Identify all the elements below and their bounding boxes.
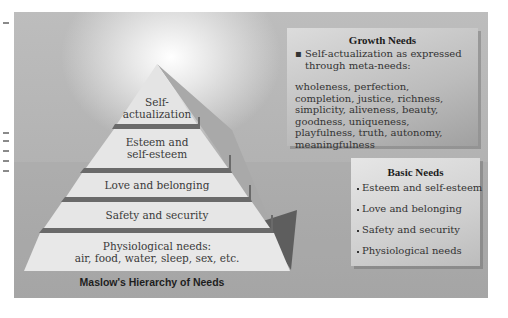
diagram-panel: Self- actualization Esteem and self-este… (14, 12, 488, 298)
bullet-icon: ▪ (295, 48, 305, 71)
growth-needs-heading: Growth Needs (287, 28, 478, 46)
basic-needs-item: Safety and security (357, 224, 480, 235)
layer-physiological: Physiological needs: air, food, water, s… (37, 240, 277, 264)
basic-needs-box: Basic Needs Esteem and self-esteem Love … (351, 158, 480, 266)
layer-esteem: Esteem and self-esteem (107, 136, 207, 160)
divider-3 (61, 197, 252, 202)
basic-needs-item: Esteem and self-esteem (357, 182, 480, 193)
bullet-icon (357, 251, 359, 253)
layer-safety-security: Safety and security (57, 209, 257, 221)
figure-caption: Maslow's Hierarchy of Needs (14, 276, 290, 288)
bullet-icon (357, 209, 359, 211)
divider-4 (39, 228, 274, 233)
basic-needs-heading: Basic Needs (351, 158, 480, 178)
bullet-icon (357, 188, 359, 190)
meta-needs-list: wholeness, perfection, completion, justi… (295, 81, 470, 150)
bullet-icon (357, 230, 359, 232)
divider-2 (80, 168, 232, 173)
layer-love-belonging: Love and belonging (77, 179, 237, 191)
divider-1 (112, 124, 199, 129)
layer-self-actualization: Self- actualization (112, 96, 202, 120)
growth-needs-bullet: Self-actualization as expressed through … (305, 48, 470, 71)
growth-needs-box: Growth Needs ▪ Self-actualization as exp… (287, 28, 478, 146)
cropped-margin-text (0, 0, 12, 318)
basic-needs-item: Physiological needs (357, 245, 480, 256)
basic-needs-item: Love and belonging (357, 203, 480, 214)
